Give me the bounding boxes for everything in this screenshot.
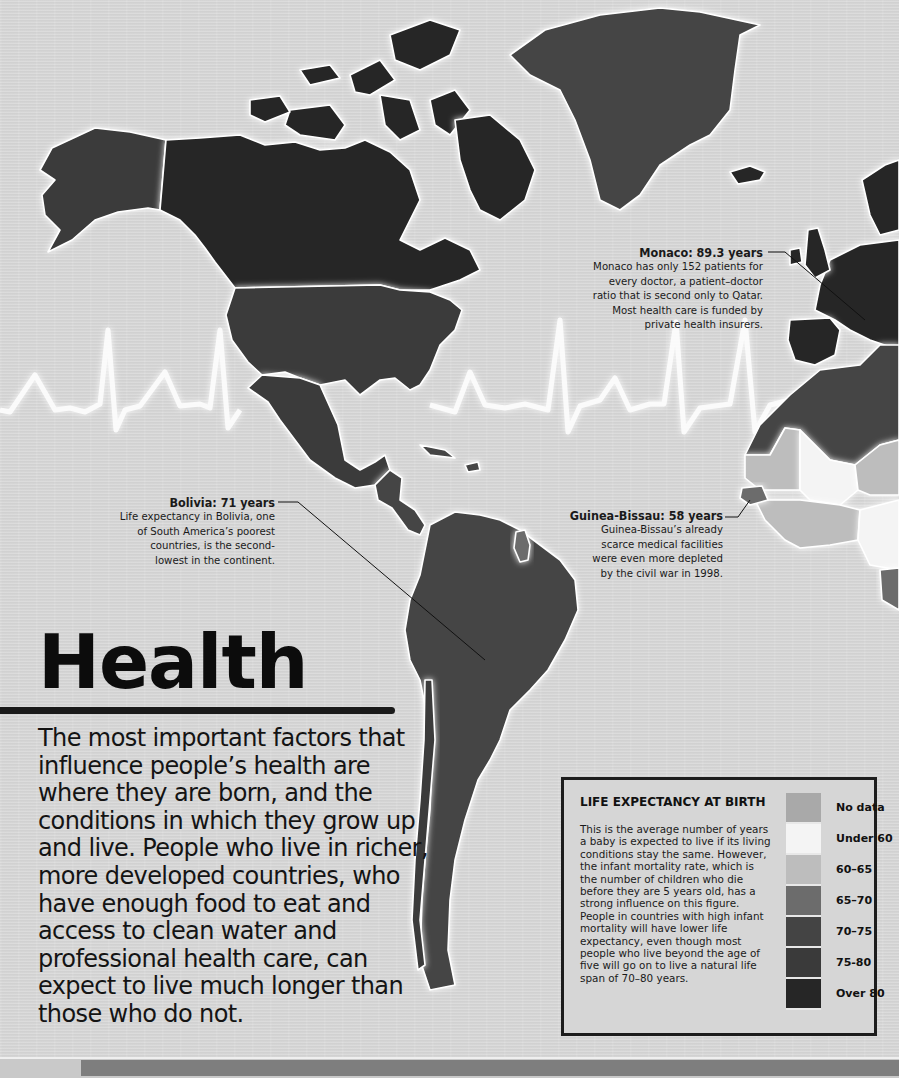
region-iceland	[730, 166, 765, 184]
region-alaska	[40, 128, 166, 252]
annotation-monaco-line: Most health care is funded by	[548, 304, 763, 319]
annotation-guinea-bissau-title: Guinea-Bissau: 58 years	[535, 508, 723, 523]
region-mexico	[248, 375, 390, 488]
region-west-africa	[755, 500, 860, 548]
annotation-bolivia-line: lowest in the continent.	[80, 554, 275, 569]
annotation-bolivia-line: countries, is the second-	[80, 539, 275, 554]
region-greenland	[510, 8, 760, 210]
legend-key-label: Over 80	[836, 987, 885, 1000]
region-canada-islands	[250, 20, 470, 140]
legend-title: LIFE EXPECTANCY AT BIRTH	[580, 796, 770, 809]
region-uk	[790, 228, 830, 278]
page-title: Health	[38, 622, 307, 702]
annotation-guinea-bissau-line: were even more depleted	[535, 552, 723, 567]
annotation-guinea-bissau-line: scarce medical facilities	[535, 538, 723, 553]
legend-swatch	[786, 855, 821, 886]
legend-key-label: 65–70	[836, 894, 872, 907]
region-caribbean	[420, 445, 480, 472]
legend-key-label: Under 60	[836, 832, 893, 845]
footer-bar	[81, 1060, 899, 1076]
legend-swatch	[786, 886, 821, 917]
region-africa-south	[880, 568, 899, 610]
annotation-guinea-bissau: Guinea-Bissau: 58 years Guinea-Bissau’s …	[535, 508, 723, 581]
annotation-monaco-line: ratio that is second only to Qatar.	[548, 289, 763, 304]
title-underline	[0, 707, 395, 714]
annotation-bolivia-line: of South America’s poorest	[80, 525, 275, 540]
legend-key-label: No data	[836, 801, 885, 814]
legend-key-label: 60–65	[836, 863, 872, 876]
region-central-africa	[858, 500, 899, 570]
legend-swatch	[786, 948, 821, 979]
legend-key-label: 70–75	[836, 925, 872, 938]
annotation-monaco-line: Monaco has only 152 patients for	[548, 260, 763, 275]
annotation-guinea-bissau-line: Guinea-Bissau’s already	[535, 523, 723, 538]
annotation-bolivia: Bolivia: 71 years Life expectancy in Bol…	[80, 495, 275, 568]
legend-box: LIFE EXPECTANCY AT BIRTH This is the ave…	[561, 777, 877, 1036]
legend-swatch	[786, 917, 821, 948]
legend-swatch	[786, 793, 821, 824]
region-central-america	[375, 470, 425, 535]
legend-swatch	[786, 824, 821, 855]
annotation-monaco-line: private health insurers.	[548, 318, 763, 333]
region-scandinavia	[862, 160, 899, 235]
legend-key-label: 75-80	[836, 956, 871, 969]
region-iberia	[788, 318, 840, 365]
annotation-monaco: Monaco: 89.3 years Monaco has only 152 p…	[548, 245, 763, 333]
legend-swatch	[786, 979, 821, 1010]
legend-description: This is the average number of years a ba…	[580, 823, 774, 984]
region-canada	[160, 135, 480, 290]
intro-paragraph: The most important factors that influenc…	[38, 725, 428, 1029]
annotation-bolivia-line: Life expectancy in Bolivia, one	[80, 510, 275, 525]
annotation-monaco-title: Monaco: 89.3 years	[548, 245, 763, 260]
annotation-guinea-bissau-line: by the civil war in 1998.	[535, 567, 723, 582]
annotation-monaco-line: every doctor, a patient–doctor	[548, 275, 763, 290]
region-quebec	[455, 115, 535, 220]
annotation-bolivia-title: Bolivia: 71 years	[80, 495, 275, 510]
